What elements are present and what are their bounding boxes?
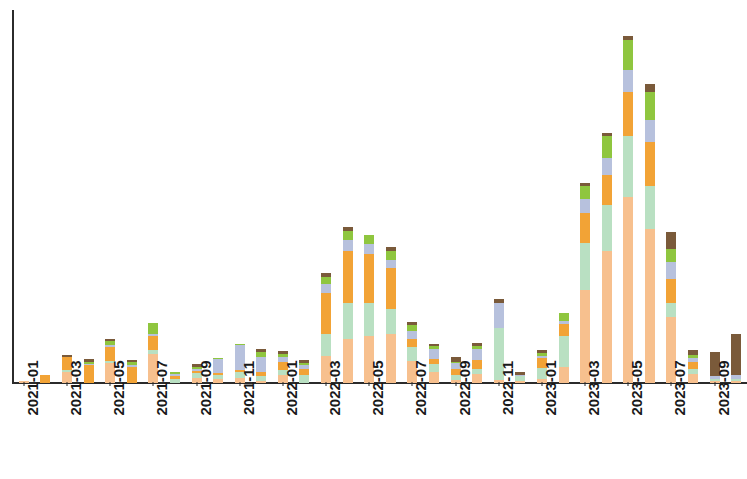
bar-segment-series-1-peach xyxy=(731,381,741,383)
bar-segment-series-6-brown xyxy=(645,84,655,92)
bar-segment-series-2-mint xyxy=(364,303,374,336)
bar-segment-series-1-peach xyxy=(559,367,569,383)
bar-segment-series-2-mint xyxy=(559,336,569,366)
bar-segment-series-5-green xyxy=(343,231,353,241)
x-tick: 2021-05 xyxy=(103,386,117,476)
bar-segment-series-5-green xyxy=(623,40,633,70)
x-tick-label: 2022-01 xyxy=(283,360,300,415)
bar-segment-series-5-green xyxy=(386,251,396,260)
bar-segment-series-4-bluegray xyxy=(623,70,633,92)
bar xyxy=(472,343,482,383)
plot-area xyxy=(13,10,747,383)
bar-segment-series-2-mint xyxy=(623,136,633,196)
bar-segment-series-2-mint xyxy=(645,186,655,230)
bar-segment-series-3-orange xyxy=(472,360,482,369)
bar-segment-series-3-orange xyxy=(666,279,676,304)
x-tick: 2021-09 xyxy=(190,386,204,476)
bar-segment-series-3-orange xyxy=(321,293,331,334)
bar-segment-series-5-green xyxy=(559,313,569,321)
bar-segment-series-5-green xyxy=(645,92,655,119)
bar-segment-series-4-bluegray xyxy=(472,349,482,360)
x-tick: 2022-09 xyxy=(449,386,463,476)
bar-segment-series-1-peach xyxy=(213,379,223,383)
bar-segment-series-3-orange xyxy=(623,92,633,136)
x-tick: 2023-07 xyxy=(664,386,678,476)
bar-segment-series-3-orange xyxy=(364,254,374,303)
bar-segment-series-5-green xyxy=(666,249,676,263)
bar-segment-series-2-mint xyxy=(580,243,590,290)
bar-segment-series-5-green xyxy=(580,186,590,199)
bar xyxy=(256,349,266,383)
bar-segment-series-2-mint xyxy=(170,379,180,383)
bar-segment-series-4-bluegray xyxy=(429,349,439,359)
bar-segment-series-3-orange xyxy=(688,362,698,369)
x-tick-label: 2021-01 xyxy=(24,360,41,415)
bar-segment-series-5-green xyxy=(321,277,331,285)
x-tick-label: 2022-05 xyxy=(369,360,386,415)
x-tick: 2022-03 xyxy=(319,386,333,476)
bar-segment-series-5-green xyxy=(602,136,612,158)
bar-segment-series-2-mint xyxy=(602,205,612,252)
bar-segment-series-2-mint xyxy=(386,309,396,334)
x-tick: 2022-05 xyxy=(362,386,376,476)
bar xyxy=(559,313,569,383)
bar-group xyxy=(13,10,747,383)
bar-segment-series-2-mint xyxy=(343,303,353,339)
bar xyxy=(40,375,50,383)
bar xyxy=(127,360,137,383)
bar-segment-series-3-orange xyxy=(645,142,655,186)
x-tick: 2023-09 xyxy=(708,386,722,476)
x-tick: 2021-01 xyxy=(17,386,31,476)
bar-segment-series-3-orange xyxy=(148,336,158,350)
stacked-bar-chart: 2021-012021-032021-052021-072021-092021-… xyxy=(0,0,747,479)
bar-segment-series-1-peach xyxy=(472,374,482,383)
bar-segment-series-3-orange xyxy=(84,365,94,383)
bar-segment-series-1-peach xyxy=(429,372,439,383)
x-tick-label: 2021-07 xyxy=(153,360,170,415)
x-axis-tick-labels: 2021-012021-032021-052021-072021-092021-… xyxy=(13,386,747,479)
x-tick-label: 2023-03 xyxy=(585,360,602,415)
bar-segment-series-4-bluegray xyxy=(256,357,266,371)
bar-segment-series-3-orange xyxy=(343,251,353,303)
bar xyxy=(84,359,94,383)
x-tick-label: 2022-09 xyxy=(456,360,473,415)
bar-segment-series-4-bluegray xyxy=(407,331,417,338)
bar-segment-series-3-orange xyxy=(40,375,50,383)
x-tick: 2022-07 xyxy=(405,386,419,476)
bar-segment-series-4-bluegray xyxy=(321,284,331,292)
bar-segment-series-1-peach xyxy=(688,374,698,383)
bar-segment-series-3-orange xyxy=(299,369,309,376)
bar-segment-series-3-orange xyxy=(127,367,137,383)
bar-segment-series-3-orange xyxy=(602,175,612,205)
bar-segment-series-3-orange xyxy=(386,268,396,309)
bar-segment-series-3-orange xyxy=(559,324,569,336)
bar xyxy=(602,133,612,383)
bar-segment-series-4-bluegray xyxy=(666,262,676,278)
bar-segment-series-4-bluegray xyxy=(580,199,590,213)
bar-segment-series-6-brown xyxy=(731,334,741,375)
bar-segment-series-3-orange xyxy=(105,347,115,360)
bar-segment-series-4-bluegray xyxy=(213,359,223,373)
x-tick: 2023-01 xyxy=(535,386,549,476)
x-tick-label: 2021-03 xyxy=(67,360,84,415)
bar xyxy=(213,358,223,383)
bar-segment-series-5-green xyxy=(407,325,417,332)
bar xyxy=(731,334,741,383)
x-tick-label: 2022-11 xyxy=(499,361,516,415)
bar-segment-series-5-green xyxy=(364,235,374,244)
x-tick: 2021-11 xyxy=(233,386,247,476)
bar-segment-series-5-green xyxy=(148,323,158,334)
bar xyxy=(170,371,180,383)
bar xyxy=(688,350,698,383)
x-tick: 2021-07 xyxy=(146,386,160,476)
bar xyxy=(580,183,590,383)
bar xyxy=(623,36,633,383)
x-tick-label: 2021-09 xyxy=(197,360,214,415)
x-tick-label: 2023-07 xyxy=(671,360,688,415)
x-tick-label: 2022-07 xyxy=(412,360,429,415)
bar xyxy=(645,84,655,383)
x-tick-label: 2021-05 xyxy=(110,360,127,415)
x-tick: 2023-05 xyxy=(621,386,635,476)
bar-segment-series-1-peach xyxy=(343,339,353,383)
bar-segment-series-4-bluegray xyxy=(343,240,353,251)
